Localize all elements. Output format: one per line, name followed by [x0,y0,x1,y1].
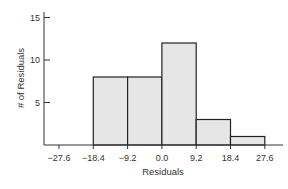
histogram-bar [231,137,265,146]
x-tick-label: 27.6 [256,153,274,163]
x-tick-label: 18.4 [222,153,240,163]
x-ticks: −27.6−18.4−9.20.09.218.427.6 [48,145,274,163]
histogram-bars [93,43,264,145]
x-tick-label: −27.6 [48,153,71,163]
histogram-bar [162,43,196,145]
x-tick-label: 0.0 [156,153,169,163]
histogram-bar [93,77,127,145]
y-tick-label: 15 [30,13,40,23]
x-tick-label: −9.2 [119,153,137,163]
y-tick-label: 10 [30,55,40,65]
y-ticks: 51015 [30,13,50,108]
y-tick-label: 5 [35,98,40,108]
y-axis-title: # of Residuals [15,48,26,108]
x-tick-label: −18.4 [82,153,105,163]
x-axis-title: Residuals [142,166,184,177]
histogram-bar [196,120,230,146]
x-tick-label: 9.2 [190,153,203,163]
histogram-bar [128,77,162,145]
histogram-chart: 51015 −27.6−18.4−9.20.09.218.427.6 Resid… [0,0,288,189]
